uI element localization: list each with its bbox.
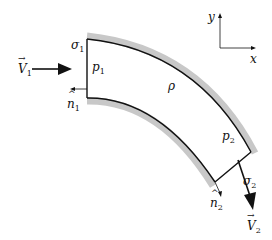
- p1-symbol: p: [92, 60, 100, 74]
- n2-sub: 2: [218, 203, 223, 212]
- sigma1-symbol: σ: [71, 38, 79, 52]
- n2-symbol: n: [210, 197, 218, 209]
- inner-boundary: [87, 98, 215, 182]
- n1-symbol: n: [67, 98, 75, 110]
- sigma2-label: σ2: [243, 175, 256, 190]
- x-axis-label: x: [250, 53, 257, 65]
- p2-sub: 2: [230, 136, 235, 145]
- v2-label: V2: [247, 220, 261, 235]
- v2-arrow-head: [244, 192, 256, 210]
- inner-wall-band: [87, 101, 213, 186]
- v1-symbol: V: [18, 63, 27, 75]
- x-axis-head: [251, 46, 256, 50]
- diagram-graphic: [0, 0, 272, 240]
- p2-label: p2: [222, 130, 235, 145]
- v1-sub: 1: [27, 69, 32, 78]
- n1-label: n1: [67, 98, 80, 113]
- sigma2-symbol: σ: [243, 174, 251, 188]
- p1-label: p1: [92, 61, 105, 76]
- v1-arrow-head: [58, 63, 72, 75]
- p1-sub: 1: [100, 67, 105, 76]
- pipe-bend-diagram: V1 σ1 p1 n1 ρ p2 σ2 n2 V2 y x: [0, 0, 272, 240]
- y-axis-label: y: [208, 11, 215, 23]
- y-axis-head: [218, 13, 222, 18]
- sigma2-sub: 2: [251, 181, 256, 190]
- v1-label: V1: [18, 63, 32, 78]
- sigma1-sub: 1: [79, 45, 84, 54]
- sigma1-label: σ1: [71, 39, 84, 54]
- v2-sub: 2: [256, 226, 261, 235]
- rho-label: ρ: [168, 80, 175, 92]
- v2-symbol: V: [247, 220, 256, 232]
- n1-sub: 1: [75, 104, 80, 113]
- n2-label: n2: [210, 197, 223, 212]
- p2-symbol: p: [222, 129, 230, 143]
